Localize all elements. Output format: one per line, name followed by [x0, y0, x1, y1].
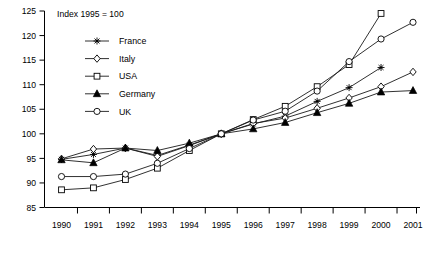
marker-open-circle	[90, 173, 96, 179]
marker-open-square	[378, 11, 384, 17]
x-tick-label: 2000	[371, 220, 390, 230]
legend-label: USA	[119, 71, 137, 81]
x-tick-label: 1999	[340, 220, 359, 230]
legend-label: Germany	[119, 89, 156, 99]
marker-asterisk	[378, 64, 385, 71]
series-line	[62, 13, 382, 189]
marker-open-square	[59, 187, 65, 193]
marker-asterisk	[94, 38, 101, 45]
y-tick-label: 125	[22, 6, 37, 16]
x-tick-marks	[77, 208, 416, 214]
series-line	[62, 72, 414, 159]
marker-open-circle	[122, 171, 128, 177]
x-tick-label: 1995	[212, 220, 231, 230]
marker-open-circle	[282, 108, 288, 114]
x-tick-label: 1997	[276, 220, 295, 230]
legend-item-usa: USA	[85, 71, 137, 81]
series-usa	[59, 11, 384, 193]
chart-legend: FranceItalyUSAGermanyUK	[85, 36, 156, 116]
series-france	[58, 64, 385, 163]
y-tick-label: 100	[22, 129, 37, 139]
x-tick-label: 1996	[244, 220, 263, 230]
marker-open-diamond	[94, 55, 100, 62]
legend-label: UK	[119, 107, 131, 117]
x-tick-label: 1994	[180, 220, 199, 230]
x-tick-labels: 1990199119921993199419951996199719981999…	[52, 220, 423, 230]
legend-label: France	[119, 36, 146, 46]
marker-open-circle	[186, 145, 192, 151]
y-tick-label: 90	[26, 178, 36, 188]
marker-open-circle	[378, 36, 384, 42]
marker-open-circle	[154, 160, 160, 166]
index-base-note: Index 1995 = 100	[57, 9, 124, 19]
y-tick-marks	[40, 11, 45, 208]
marker-open-square	[91, 185, 97, 191]
index-line-chart: 859095100105110115120125 199019911992199…	[0, 0, 427, 253]
marker-filled-triangle	[409, 87, 416, 94]
marker-open-circle	[314, 88, 320, 94]
x-tick-label: 1990	[52, 220, 71, 230]
marker-open-circle	[410, 19, 416, 25]
chart-canvas: 859095100105110115120125 199019911992199…	[0, 0, 427, 253]
legend-item-germany: Germany	[85, 89, 156, 99]
legend-item-france: France	[85, 36, 146, 46]
x-tick-label: 1993	[148, 220, 167, 230]
legend-label: Italy	[119, 54, 136, 64]
y-tick-label: 120	[22, 31, 37, 41]
x-axis: 1990199119921993199419951996199719981999…	[45, 208, 423, 231]
marker-open-circle	[346, 58, 352, 64]
marker-open-circle	[58, 173, 64, 179]
legend-item-italy: Italy	[85, 54, 136, 64]
y-tick-label: 105	[22, 104, 37, 114]
y-tick-label: 110	[22, 80, 36, 90]
y-tick-labels: 859095100105110115120125	[22, 6, 37, 213]
x-tick-label: 1998	[308, 220, 327, 230]
y-tick-label: 115	[22, 55, 36, 65]
marker-open-circle	[218, 131, 224, 137]
series-germany	[58, 87, 417, 166]
x-tick-label: 2001	[403, 220, 422, 230]
legend-item-uk: UK	[85, 107, 131, 117]
marker-open-circle	[94, 108, 100, 114]
series-italy	[58, 68, 416, 162]
marker-asterisk	[346, 84, 353, 91]
marker-filled-triangle	[93, 90, 100, 97]
marker-open-circle	[250, 117, 256, 123]
x-tick-label: 1992	[116, 220, 135, 230]
marker-open-diamond	[410, 68, 416, 75]
marker-open-diamond	[90, 145, 96, 152]
y-tick-label: 95	[26, 154, 36, 164]
y-tick-label: 85	[26, 203, 36, 213]
x-tick-label: 1991	[84, 220, 103, 230]
marker-open-square	[94, 73, 100, 79]
marker-asterisk	[314, 98, 321, 105]
series-plot-area	[58, 11, 417, 193]
y-axis: 859095100105110115120125	[22, 6, 45, 213]
series-line	[62, 67, 382, 159]
